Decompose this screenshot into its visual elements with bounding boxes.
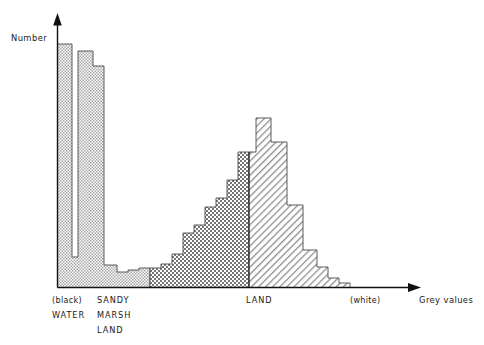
series-land xyxy=(249,118,350,288)
category-label-marshland: LAND xyxy=(97,325,123,335)
x-axis-label: Grey values xyxy=(419,295,473,305)
histogram-svg: Number Grey values (black) (white) WATER… xyxy=(0,0,484,345)
x-axis-white-marker: (white) xyxy=(350,296,381,305)
y-axis-label: Number xyxy=(11,33,47,43)
x-axis-black-marker: (black) xyxy=(52,296,82,305)
y-axis-arrow-icon xyxy=(53,13,62,26)
category-label-sandy: SANDY xyxy=(97,295,130,305)
series-sandy-marsh-land xyxy=(150,152,249,288)
x-axis-arrow-icon xyxy=(408,283,421,292)
category-label-water: WATER xyxy=(52,310,85,320)
histogram-figure: Number Grey values (black) (white) WATER… xyxy=(0,0,484,345)
category-label-marsh: MARSH xyxy=(97,310,131,320)
series-water xyxy=(58,44,151,288)
category-label-land: LAND xyxy=(246,295,272,305)
